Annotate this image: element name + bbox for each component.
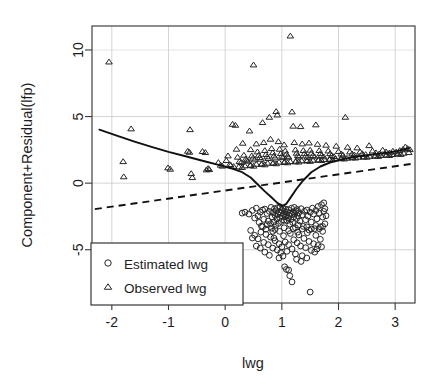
data-point-triangle bbox=[234, 154, 241, 159]
data-point-circle bbox=[317, 236, 323, 242]
data-point-triangle bbox=[250, 62, 257, 67]
data-point-triangle bbox=[262, 148, 269, 153]
y-axis-ticks bbox=[85, 50, 92, 250]
x-tick-label: -2 bbox=[106, 314, 119, 330]
data-point-triangle bbox=[287, 33, 294, 38]
x-tick-label: 2 bbox=[335, 314, 343, 330]
component-residual-plot: -2-10123 -50510 lwg Component+Residual(l… bbox=[0, 0, 441, 389]
data-point-triangle bbox=[267, 136, 274, 141]
data-point-circle bbox=[287, 273, 293, 279]
y-axis-tick-labels: -50510 bbox=[70, 42, 86, 256]
data-point-triangle bbox=[313, 122, 320, 127]
data-point-triangle bbox=[273, 109, 280, 114]
data-point-circle bbox=[308, 247, 314, 253]
legend-label: Estimated lwg bbox=[124, 257, 208, 272]
y-tick-label: 5 bbox=[70, 112, 86, 120]
data-point-triangle bbox=[233, 146, 240, 151]
data-point-circle bbox=[293, 251, 299, 257]
data-point-triangle bbox=[120, 174, 127, 179]
legend-box bbox=[91, 243, 243, 305]
y-tick-label: 0 bbox=[70, 179, 86, 187]
data-point-triangle bbox=[291, 140, 298, 145]
y-tick-label: 10 bbox=[70, 42, 86, 58]
data-point-triangle bbox=[253, 141, 260, 146]
y-axis-title: Component+Residual(lfp) bbox=[19, 83, 35, 248]
data-point-triangle bbox=[314, 141, 321, 146]
data-point-triangle bbox=[120, 159, 127, 164]
data-point-circle bbox=[307, 289, 313, 295]
estimated-lwg-series bbox=[239, 200, 329, 295]
data-point-triangle bbox=[246, 128, 253, 133]
data-point-triangle bbox=[259, 120, 266, 125]
x-axis-title: lwg bbox=[242, 355, 264, 371]
plot-canvas: -2-10123 -50510 lwg Component+Residual(l… bbox=[0, 0, 441, 389]
data-point-circle bbox=[320, 214, 326, 220]
data-point-triangle bbox=[247, 147, 254, 152]
data-point-triangle bbox=[297, 124, 304, 129]
data-point-circle bbox=[289, 279, 295, 285]
linear-fit-line bbox=[95, 164, 412, 209]
data-point-triangle bbox=[290, 123, 297, 128]
legend: Estimated lwgObserved lwg bbox=[91, 243, 243, 305]
data-point-triangle bbox=[299, 141, 306, 146]
data-point-triangle bbox=[268, 146, 275, 151]
x-axis-tick-labels: -2-10123 bbox=[106, 314, 400, 330]
data-point-triangle bbox=[239, 140, 246, 145]
x-tick-label: -1 bbox=[162, 314, 175, 330]
data-point-triangle bbox=[187, 127, 194, 132]
x-tick-label: 0 bbox=[221, 314, 229, 330]
data-point-triangle bbox=[306, 140, 313, 145]
legend-label: Observed lwg bbox=[124, 281, 207, 296]
data-point-triangle bbox=[366, 143, 373, 148]
x-tick-label: 1 bbox=[278, 314, 286, 330]
data-point-circle bbox=[266, 252, 272, 258]
data-point-circle bbox=[255, 236, 261, 242]
data-point-circle bbox=[314, 216, 320, 222]
data-point-triangle bbox=[106, 59, 113, 64]
x-tick-label: 3 bbox=[391, 314, 399, 330]
y-tick-label: -5 bbox=[70, 243, 86, 256]
data-point-triangle bbox=[289, 109, 296, 114]
data-point-triangle bbox=[223, 158, 230, 163]
data-point-triangle bbox=[128, 126, 135, 131]
data-point-circle bbox=[248, 228, 254, 234]
observed-lwg-series bbox=[106, 33, 414, 179]
data-point-triangle bbox=[225, 153, 232, 158]
data-point-triangle bbox=[275, 139, 282, 144]
data-point-triangle bbox=[188, 171, 195, 176]
data-point-triangle bbox=[260, 140, 267, 145]
regression-line-dashed bbox=[95, 164, 412, 209]
data-point-triangle bbox=[323, 142, 330, 147]
